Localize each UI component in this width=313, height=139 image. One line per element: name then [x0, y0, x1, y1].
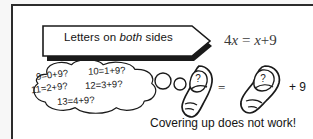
thumb-right-question-mark: ? — [260, 73, 266, 84]
thumb-hand-left-icon: ? — [173, 64, 219, 119]
banner-text-after: sides — [142, 31, 173, 43]
banner-arrow-shape — [42, 22, 224, 64]
equation-right-constant: 9 — [269, 32, 277, 48]
figure-frame: Letters on both sides 4x = x+9 9=0+9? 10… — [11, 4, 313, 139]
thought-bubble-text: 9=0+9? 10=1+9? 11=2+9? 12=3+9? 13=4+9? — [27, 61, 172, 117]
guess-line: 11=2+9? — [30, 80, 68, 95]
covering-equals-sign: = — [218, 80, 225, 96]
trailing-term: + 9 — [289, 80, 306, 94]
equation-left-coefficient: 4 — [224, 32, 232, 48]
caption: Covering up does not work! — [150, 116, 296, 130]
equation: 4x = x+9 — [224, 32, 277, 49]
thought-bubble: 9=0+9? 10=1+9? 11=2+9? 12=3+9? 13=4+9? — [27, 61, 187, 121]
banner-label: Letters on both sides — [64, 31, 204, 43]
banner-arrow: Letters on both sides — [42, 22, 222, 62]
equation-right-variable: x — [254, 32, 261, 48]
guess-line: 13=4+9? — [57, 94, 95, 107]
banner-text-emphasis: both — [119, 31, 142, 43]
thumb-hand-right-icon: ? — [235, 61, 285, 117]
figure-canvas: Letters on both sides 4x = x+9 9=0+9? 10… — [0, 0, 313, 139]
guess-line: 12=3+9? — [85, 78, 123, 91]
thumb-left-question-mark: ? — [195, 73, 201, 84]
equation-left-variable: x — [232, 32, 239, 48]
equation-equals-sign: = — [242, 32, 250, 48]
equation-plus-sign: + — [261, 32, 269, 48]
guess-line: 10=1+9? — [88, 64, 126, 76]
banner-text-before: Letters on — [64, 31, 119, 43]
